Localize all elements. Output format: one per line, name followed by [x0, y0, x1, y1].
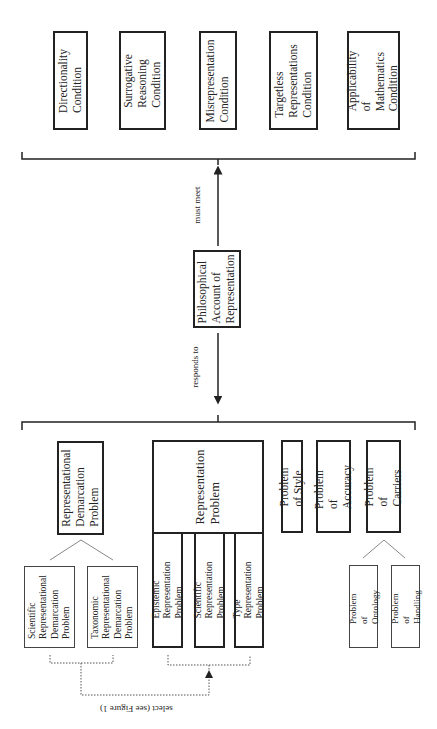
type-representation-problem-box: Type Representation Problem — [234, 532, 264, 648]
select-label: select (see Figure 1) — [100, 704, 173, 714]
scientific-rdp-label: Scientific Representational Demarcation … — [27, 575, 73, 639]
scientific-representation-problem-label: Scientific Representation Problem — [192, 562, 226, 619]
carriers-tree-lines — [363, 540, 405, 558]
problem-of-ontology-box: Problem of Ontology — [349, 565, 378, 648]
targetless-representations-condition-box: Targetless Representations Condition — [269, 31, 318, 130]
representation-problem-box: Representation Problem — [152, 440, 264, 534]
epistemic-representation-problem-box: Epistemic Representation Problem — [152, 532, 183, 648]
directionality-condition-box: Directionality Condition — [53, 31, 88, 130]
problem-of-accuracy-label: Problem of Accuracy — [313, 464, 354, 508]
applicability-of-mathematics-condition-box: Applicability of Mathematics Condition — [347, 31, 400, 130]
scientific-representation-problem-box: Scientific Representation Problem — [194, 532, 225, 648]
misrepresentation-condition-label: Misrepresentation Condition — [204, 39, 232, 122]
representation-problem-label: Representation Problem — [193, 450, 223, 525]
surrogative-reasoning-condition-box: Surrogative Reasoning Condition — [119, 31, 166, 130]
problem-of-handling-label: Problem of Handling — [389, 590, 421, 624]
problem-of-handling-box: Problem of Handling — [391, 565, 420, 648]
epistemic-representation-problem-label: Epistemic Representation Problem — [150, 562, 184, 619]
problem-of-carriers-box: Problem of Carriers — [366, 440, 401, 533]
problem-of-style-box: Problem of Style — [281, 440, 303, 533]
applicability-of-mathematics-condition-label: Applicability of Mathematics Condition — [346, 50, 401, 111]
problem-of-accuracy-box: Problem of Accuracy — [316, 440, 351, 533]
must-meet-label: must meet — [192, 186, 202, 223]
philosophical-account-box: Philosophical Account of Representation — [193, 250, 241, 328]
directionality-condition-label: Directionality Condition — [57, 49, 85, 113]
problem-of-ontology-label: Problem of Ontology — [347, 589, 379, 623]
scientific-rdp-box: Scientific Representational Demarcation … — [24, 566, 75, 648]
demarcation-tree-lines — [50, 540, 113, 560]
problem-of-style-label: Problem of Style — [278, 467, 306, 506]
representational-demarcation-problem-label: Representational Demarcation Problem — [60, 449, 101, 526]
taxonomic-rdp-label: Taxonomic Representational Demarcation P… — [90, 575, 136, 639]
philosophical-account-label: Philosophical Account of Representation — [196, 255, 237, 324]
type-representation-problem-label: Type Representation Problem — [232, 562, 266, 619]
representational-demarcation-problem-box: Representational Demarcation Problem — [57, 441, 104, 535]
targetless-representations-condition-label: Targetless Representations Condition — [273, 44, 314, 117]
select-arrowhead — [205, 670, 213, 678]
problem-of-carriers-label: Problem of Carriers — [363, 467, 404, 506]
surrogative-reasoning-condition-label: Surrogative Reasoning Condition — [122, 54, 163, 108]
bottom-bracket — [22, 415, 415, 430]
select-brackets — [50, 655, 250, 695]
taxonomic-rdp-box: Taxonomic Representational Demarcation P… — [87, 566, 138, 648]
top-bracket — [22, 152, 415, 165]
responds-to-label: responds to — [190, 346, 200, 387]
misrepresentation-condition-box: Misrepresentation Condition — [199, 31, 237, 130]
